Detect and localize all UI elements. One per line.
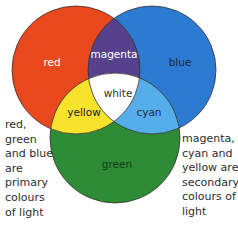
label-cyan: cyan <box>136 106 161 118</box>
secondary-colours-note: magenta, cyan and yellow are secondary c… <box>182 132 238 220</box>
label-blue: blue <box>169 56 192 68</box>
label-red: red <box>43 56 60 68</box>
primary-colours-note: red, green and blue are primary colours … <box>5 118 53 220</box>
label-magenta: magenta <box>91 48 138 60</box>
label-green: green <box>102 158 132 170</box>
label-yellow: yellow <box>67 106 101 118</box>
label-white: white <box>104 87 133 99</box>
